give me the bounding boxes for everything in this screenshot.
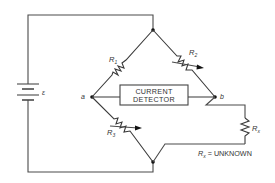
- resistor-r3-variable: R3: [92, 97, 153, 162]
- detector-label-line2: DETECTOR: [133, 95, 175, 104]
- node-b-label: b: [220, 93, 224, 100]
- node-a-label: a: [81, 93, 85, 100]
- r1-label: R1: [109, 55, 117, 65]
- battery-icon: ε: [17, 84, 46, 100]
- wheatstone-bridge-diagram: ε R1 R2 a b CURRENT DETECTOR R3: [0, 0, 275, 183]
- r2-variable-arrow: [172, 62, 200, 67]
- r3-label: R3: [107, 128, 115, 138]
- rx-label: Rx: [252, 124, 260, 134]
- battery-emf-label: ε: [42, 89, 46, 96]
- rx-unknown-note: Rx = UNKNOWN: [198, 149, 252, 159]
- r2-label: R2: [189, 48, 197, 58]
- current-detector: CURRENT DETECTOR: [92, 85, 215, 105]
